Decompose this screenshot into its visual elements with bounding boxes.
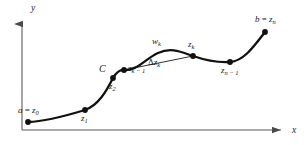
point-zk bbox=[190, 53, 196, 59]
point-label-zk: zk bbox=[188, 40, 194, 50]
point-label-z2-sub: 2 bbox=[113, 85, 116, 92]
y-axis-label: y bbox=[31, 4, 35, 14]
point-label-zn: b = zn bbox=[255, 15, 276, 25]
point-label-z0-op: = bbox=[23, 105, 33, 115]
chord-label-delta-zk: Δzk bbox=[148, 58, 160, 68]
point-zk1 bbox=[121, 67, 127, 73]
point-label-zn-minus-1: zn − 1 bbox=[221, 66, 239, 76]
point-label-z1: z1 bbox=[81, 114, 88, 124]
figure-container: y x a = z0 z1 C z2 zk − 1 wk Δzk zk zn −… bbox=[0, 0, 308, 145]
point-label-zk-minus-1: zk − 1 bbox=[128, 64, 145, 74]
point-zn bbox=[262, 29, 268, 35]
curve-label-wk: wk bbox=[152, 37, 161, 47]
point-label-zk-minus-1-sub: k − 1 bbox=[132, 67, 146, 74]
point-label-zn-op: = bbox=[260, 14, 270, 24]
curve-label-wk-sub: k bbox=[158, 40, 161, 47]
curve-c bbox=[28, 32, 265, 122]
point-label-z2: z2 bbox=[109, 82, 116, 92]
point-label-zn-minus-1-sub: n − 1 bbox=[225, 69, 239, 76]
point-zn1 bbox=[227, 59, 233, 65]
point-label-zk-sub: k bbox=[192, 43, 195, 50]
point-z0 bbox=[25, 119, 31, 125]
point-label-z1-sub: 1 bbox=[85, 117, 88, 124]
x-axis-label: x bbox=[292, 126, 296, 136]
point-label-z0-sub: 0 bbox=[36, 109, 39, 116]
chord-label-delta-sub: k bbox=[157, 61, 160, 68]
point-label-zn-sub: n bbox=[273, 18, 276, 25]
curve-label-c: C bbox=[99, 64, 106, 74]
point-label-z0: a = z0 bbox=[18, 106, 39, 116]
